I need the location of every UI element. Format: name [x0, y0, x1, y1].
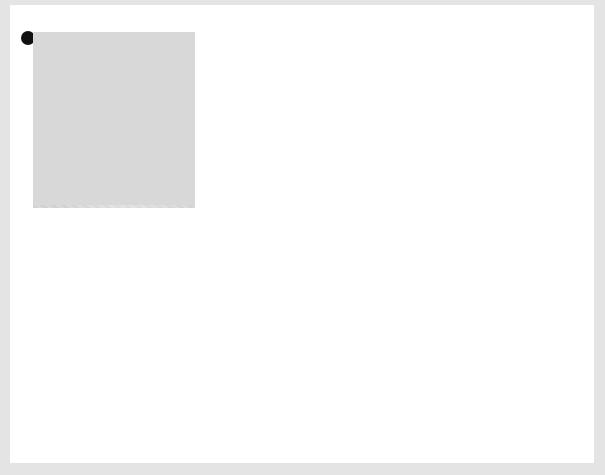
embryo-48h-backdrop-50 — [33, 32, 195, 204]
